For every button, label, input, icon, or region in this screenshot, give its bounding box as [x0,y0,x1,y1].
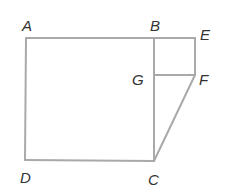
label-g: G [132,71,144,88]
label-b: B [150,17,160,34]
segments [25,38,195,161]
label-f: F [199,71,209,88]
segment-cd [25,160,154,161]
label-d: D [20,169,31,186]
segment-fc [154,75,195,161]
segment-da [25,38,26,160]
label-e: E [200,26,211,43]
label-c: C [148,171,159,188]
geometry-diagram: A B E G F D C [0,0,225,190]
label-a: A [21,17,32,34]
